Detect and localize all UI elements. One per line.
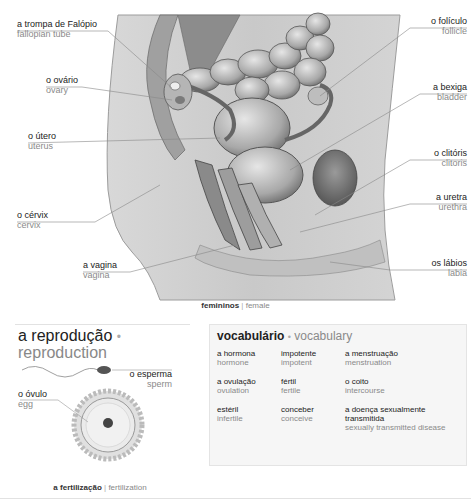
label-urethra: a uretra urethra [436,192,467,212]
label-vagina: a vagina vagina [83,260,117,280]
vocab-pt: impotente [281,349,316,358]
bullet-dot: • [117,330,121,344]
vocab-item: a ovulação ovulation [217,377,256,395]
label-en: clitoris [434,158,467,168]
label-pt: os lábios [431,258,467,268]
vocab-en: hormone [217,358,255,367]
vocab-item: a hormona hormone [217,349,255,367]
label-ovary: o ovário ovary [46,75,78,95]
vocab-pt: fértil [281,377,301,386]
vocab-pt: a doença sexualmente transmitida [345,405,460,423]
vocab-en: ovulation [217,386,256,395]
vocab-pt: o coito [345,377,385,386]
heading-en: vocabulary [294,329,352,343]
vocab-en: sexually transmitted disease [345,423,460,432]
vocab-en: menstruation [345,358,398,367]
vocab-pt: conceber [281,405,314,414]
female-reproductive-anatomy-illustration [0,0,471,302]
label-en: labia [431,268,467,278]
vocab-item: impotente impotent [281,349,316,367]
label-sperm: o esperma sperm [120,369,172,389]
label-en: bladder [433,92,467,102]
vocab-item: fértil fertile [281,377,301,395]
heading-en: reproduction [18,345,121,360]
vocab-item: a menstruação menstruation [345,349,398,367]
label-pt: a trompa de Falópio [17,19,97,29]
label-pt: o útero [28,131,56,141]
diagram-caption: femininos | female [0,301,471,310]
caption-separator: | [104,483,106,492]
vocab-pt: estéril [217,405,243,414]
label-pt: a bexiga [433,82,467,92]
label-en: vagina [83,270,117,280]
label-uterus: o útero uterus [28,131,56,151]
label-pt: a vagina [83,260,117,270]
sperm-tail [22,366,98,377]
caption-separator: | [241,301,243,310]
label-en: egg [18,399,47,409]
label-pt: o clitóris [434,148,467,158]
label-bladder: a bexiga bladder [433,82,467,102]
label-en: cervix [17,220,48,230]
caption-en: female [246,301,270,310]
label-en: uterus [28,141,56,151]
label-en: urethra [436,202,467,212]
label-en: ovary [46,85,78,95]
vocabulary-box: vocabulário • vocabulary a hormona hormo… [209,324,467,466]
label-pt: o cérvix [17,210,48,220]
vocab-en: fertile [281,386,301,395]
heading-pt: a reprodução • [18,328,121,345]
caption-en: fertilization [108,483,146,492]
label-pt: o ovário [46,75,78,85]
sperm-and-egg-illustration [20,360,200,478]
vocab-en: impotent [281,358,316,367]
vocab-pt: a ovulação [217,377,256,386]
label-clitoris: o clitóris clitoris [434,148,467,168]
vocab-item: o coito intercourse [345,377,385,395]
sperm-head [97,366,111,374]
vocab-pt: a hormona [217,349,255,358]
reproduction-heading: a reprodução • reproduction [18,328,121,360]
label-pt: o esperma [120,369,172,379]
vocab-item: conceber conceive [281,405,314,423]
vocab-en: conceive [281,414,314,423]
label-cervix: o cérvix cervix [17,210,48,230]
caption-pt: a fertilização [53,483,101,492]
label-pt: o óvulo [18,389,47,399]
vocab-item: estéril infertile [217,405,243,423]
fertilization-caption: a fertilização | fertilization [0,483,200,492]
vocab-pt: a menstruação [345,349,398,358]
label-pt: o folículo [431,16,467,26]
vocab-en: intercourse [345,386,385,395]
vocab-item: a doença sexualmente transmitida sexuall… [345,405,460,432]
label-follicle: o folículo follicle [431,16,467,36]
heading-pt: vocabulário [217,329,284,343]
bullet-dot: • [288,332,291,342]
vocabulary-heading: vocabulário • vocabulary [217,329,352,343]
egg-cell [74,391,142,459]
heading-pt-text: a reprodução [18,327,112,344]
bottom-divider [0,498,471,499]
label-pt: a uretra [436,192,467,202]
label-en: sperm [120,379,172,389]
caption-pt: femininos [201,301,239,310]
label-en: fallopian tube [17,29,97,39]
label-egg: o óvulo egg [18,389,47,409]
label-en: follicle [431,26,467,36]
label-fallopian-tube: a trompa de Falópio fallopian tube [17,19,97,39]
label-labia: os lábios labia [431,258,467,278]
vocab-en: infertile [217,414,243,423]
section-divider [15,324,190,325]
